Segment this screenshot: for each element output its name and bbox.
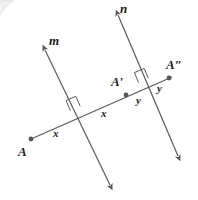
point-A-double-prime-dot [167,76,172,81]
point-A-prime-dot [124,93,129,98]
point-label-A-prime: A′ [111,75,123,88]
segment-label-x-right: x [101,108,107,119]
geometry-canvas [0,0,198,200]
segment-label-x-left: x [53,128,59,139]
segment-label-y-left: y [136,95,141,106]
point-label-A: A [18,145,27,158]
segment-label-y-right: y [157,83,162,94]
point-A-dot [29,137,34,142]
line-label-n: n [120,2,127,15]
geometry-figure: m n A A′ A″ x x y y [0,0,198,200]
line-n [118,15,178,156]
point-label-A-double-prime: A″ [166,58,182,71]
line-label-m: m [49,34,59,47]
